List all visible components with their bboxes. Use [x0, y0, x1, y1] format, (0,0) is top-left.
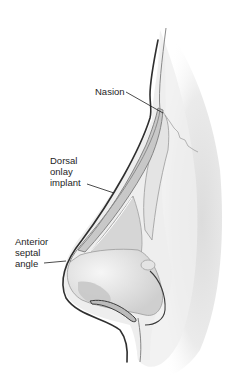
label-line: onlay: [50, 166, 81, 177]
leader-line-dorsal-implant: [87, 184, 114, 193]
label-line: angle: [15, 258, 48, 269]
nose-implant-illustration: Nasion Dorsal onlay implant Anterior sep…: [0, 0, 225, 389]
label-line: implant: [50, 177, 81, 188]
label-line: Anterior: [15, 236, 48, 247]
label-anterior-septal-angle: Anterior septal angle: [15, 236, 48, 269]
label-line: Nasion: [95, 86, 125, 97]
label-dorsal-onlay-implant: Dorsal onlay implant: [50, 155, 81, 188]
nose-profile-drawing: [0, 0, 225, 389]
label-line: septal: [15, 247, 48, 258]
label-nasion: Nasion: [95, 86, 125, 97]
label-line: Dorsal: [50, 155, 81, 166]
